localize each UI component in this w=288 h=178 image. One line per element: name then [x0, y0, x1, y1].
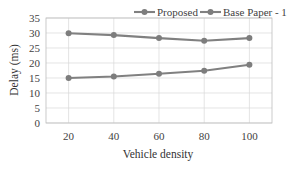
y-tick-label: 15	[29, 72, 41, 84]
data-point-marker	[156, 71, 162, 77]
x-tick-label: 40	[108, 130, 120, 142]
data-point-marker	[201, 68, 207, 74]
y-tick-label: 30	[29, 27, 41, 39]
y-axis-title: Delay (ms)	[8, 44, 21, 96]
legend-marker-icon	[142, 9, 148, 15]
data-point-marker	[66, 30, 72, 36]
data-point-marker	[66, 75, 72, 81]
legend-label: Base Paper - 1	[223, 6, 287, 18]
data-point-marker	[156, 35, 162, 41]
x-axis-title: Vehicle density	[123, 148, 194, 161]
figure-container: 35 30 25 20 15 10 5 0 20 40 60 80 100 Ve…	[0, 0, 288, 178]
data-point-marker	[201, 38, 207, 44]
legend-label: Proposed	[157, 6, 198, 18]
delay-vs-vehicle-density-line-chart: 35 30 25 20 15 10 5 0 20 40 60 80 100 Ve…	[0, 0, 288, 178]
y-tick-label: 20	[29, 57, 41, 69]
legend-marker-icon	[208, 9, 214, 15]
data-point-marker	[246, 62, 252, 68]
y-tick-label: 35	[29, 12, 41, 24]
x-tick-label: 20	[63, 130, 75, 142]
y-tick-label: 5	[35, 102, 41, 114]
x-tick-label: 60	[154, 130, 166, 142]
data-point-marker	[246, 35, 252, 41]
y-tick-label: 0	[35, 117, 41, 129]
y-tick-label: 25	[29, 42, 41, 54]
x-tick-label: 80	[199, 130, 211, 142]
data-point-marker	[111, 74, 117, 80]
data-point-marker	[111, 32, 117, 38]
y-tick-label: 10	[29, 87, 41, 99]
x-tick-label: 100	[241, 130, 258, 142]
